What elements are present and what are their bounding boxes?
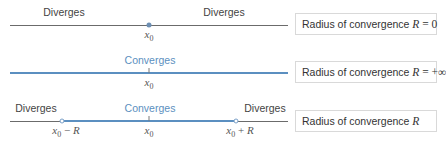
radius-box: Radius of convergence R = 0 bbox=[295, 13, 437, 35]
diverges-left-label: Diverges bbox=[43, 6, 84, 18]
equals-sign: = bbox=[419, 66, 431, 78]
center-tick bbox=[149, 68, 150, 73]
x0-label: x0 bbox=[145, 76, 154, 91]
diverges-right-label: Diverges bbox=[244, 102, 285, 114]
diagram-radius-infinite: Converges x0 Radius of convergence R = +… bbox=[0, 48, 445, 96]
radius-value: +∞ bbox=[432, 66, 446, 78]
open-circle-left-icon bbox=[60, 119, 65, 124]
radius-value: 0 bbox=[432, 18, 438, 30]
x0-minus-r-label: x0 − R bbox=[52, 124, 79, 139]
right-diverge-segment bbox=[236, 121, 288, 122]
center-tick bbox=[149, 116, 150, 121]
diverges-right-label: Diverges bbox=[203, 6, 244, 18]
radius-box: Radius of convergence R bbox=[295, 110, 437, 132]
radius-box: Radius of convergence R = +∞ bbox=[295, 61, 437, 83]
left-diverge-segment bbox=[10, 121, 62, 122]
open-circle-right-icon bbox=[234, 119, 239, 124]
converges-label: Converges bbox=[125, 54, 176, 66]
diagram-radius-finite: Diverges Converges Diverges x0 − R x0 x0… bbox=[0, 96, 445, 144]
converges-label: Converges bbox=[125, 102, 176, 114]
radius-box-text: Radius of convergence bbox=[302, 115, 409, 127]
diverges-left-label: Diverges bbox=[15, 102, 56, 114]
radius-box-text: Radius of convergence bbox=[302, 66, 409, 78]
diagram-radius-zero: Diverges Diverges x0 Radius of convergen… bbox=[0, 0, 445, 48]
x0-label: x0 bbox=[145, 124, 154, 139]
radius-variable: R bbox=[412, 115, 419, 127]
equals-sign: = bbox=[419, 18, 431, 30]
x0-label: x0 bbox=[145, 28, 154, 43]
radius-box-text: Radius of convergence bbox=[302, 18, 409, 30]
x0-plus-r-label: x0 + R bbox=[226, 124, 253, 139]
center-point-dot-icon bbox=[147, 23, 152, 28]
